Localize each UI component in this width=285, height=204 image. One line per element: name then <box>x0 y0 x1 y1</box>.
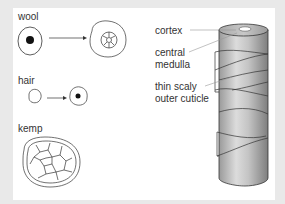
hair-small-fibre <box>29 89 41 102</box>
kemp-fibre <box>23 137 80 187</box>
wool-small-fibre <box>18 27 42 55</box>
hair-arrow-icon <box>47 96 67 100</box>
wool-arrow-icon <box>49 36 87 40</box>
wool-large-fibre <box>90 21 126 57</box>
hair-shaft <box>215 24 268 186</box>
fibre-illustration <box>0 0 285 204</box>
hair-large-fibre <box>70 87 87 105</box>
